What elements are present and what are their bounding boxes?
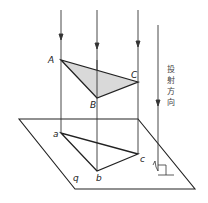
arrow-down-icon [59,34,63,40]
label-A: A [47,55,54,65]
direction-char-1: 投 [167,64,175,74]
label-b: b [96,173,102,183]
arrow-down-icon [136,41,140,47]
direction-char-3: 方 [167,86,175,96]
arrow-down-icon [156,100,160,106]
label-c: c [140,154,145,164]
right-angle-icon [153,161,174,175]
triangle-abc [61,133,138,171]
arrow-down-icon [95,43,99,49]
direction-indicator [156,25,160,171]
direction-char-4: 向 [167,97,175,107]
label-C: C [131,70,138,80]
label-a: a [53,129,59,139]
diagram-canvas: 投 射 方 向 A B C a b c q [0,0,208,203]
projection-plane [19,119,195,189]
label-plane: q [73,173,79,183]
label-B: B [90,100,96,110]
direction-char-2: 射 [167,75,175,85]
projection-diagram: 投 射 方 向 A B C a b c q [0,0,208,203]
triangle-ABC [61,60,138,98]
